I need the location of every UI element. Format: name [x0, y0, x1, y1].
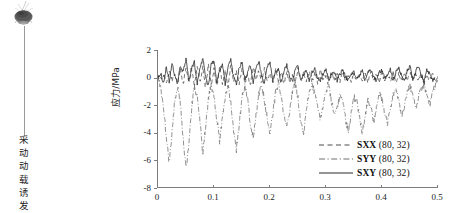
x-tick-label: 0.3	[310, 193, 340, 202]
caption-char: 动	[13, 146, 35, 159]
x-tick-label: 0.4	[366, 193, 396, 202]
y-tick-label: 2	[125, 46, 151, 55]
caption-char: 发	[13, 199, 35, 212]
legend-line-solid-icon	[318, 168, 354, 178]
x-tick-label: 0.1	[198, 193, 228, 202]
x-tick-label: 0.5	[422, 193, 451, 202]
caption-char: 诱	[13, 186, 35, 199]
y-tick-label: -2	[125, 101, 151, 110]
y-tick-label: -8	[125, 184, 151, 193]
y-tick-label: 0	[125, 73, 151, 82]
legend-label: SYY (80, 32)	[354, 154, 410, 164]
x-tick-label: 0	[142, 193, 172, 202]
stress-time-chart: 应力/MPa 20-2-4-6-8 00.10.20.30.40.5 SXX (…	[110, 38, 451, 213]
legend-label: SXY (80, 32)	[354, 168, 410, 178]
vertical-rod-icon	[24, 26, 25, 136]
caption-char: 载	[13, 173, 35, 186]
y-tick-mark	[154, 188, 157, 189]
y-tick-label: -6	[125, 156, 151, 165]
x-tick-label: 0.2	[254, 193, 284, 202]
legend-item[interactable]: SXX (80, 32)	[318, 138, 450, 152]
y-tick-label: -4	[125, 128, 151, 137]
legend-line-dashed-icon	[318, 140, 354, 150]
schematic-panel: 采 动 动 载 诱 发	[0, 0, 60, 213]
figure-root: 采 动 动 载 诱 发 应力/MPa 20-2-4-6-8 00.10.20.3…	[0, 0, 451, 213]
legend-line-dashdot-icon	[318, 154, 354, 164]
legend-label: SXX (80, 32)	[354, 140, 410, 150]
legend-item[interactable]: SYY (80, 32)	[318, 152, 450, 166]
y-axis-label: 应力/MPa	[109, 45, 123, 129]
caption-char: 动	[13, 159, 35, 172]
caption-char: 采	[13, 133, 35, 146]
legend-item[interactable]: SXY (80, 32)	[318, 166, 450, 180]
schematic-caption: 采 动 动 载 诱 发	[13, 133, 35, 212]
chart-legend: SXX (80, 32) SYY (80, 32) SXY (80, 32)	[318, 138, 450, 180]
